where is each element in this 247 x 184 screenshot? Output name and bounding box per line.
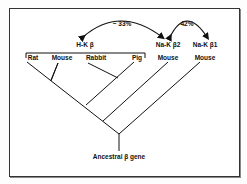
leaf-pig: Pig [132, 54, 142, 61]
group-nak-beta1: Na-K β1 [193, 41, 218, 48]
similarity-nak2-nak1: 42% [180, 20, 193, 27]
root-label: Ancestral β gene [93, 153, 145, 160]
group-hk-beta: H-K β [76, 41, 93, 48]
leaf-rat: Rat [28, 54, 38, 61]
leaf-nak1-mouse: Mouse [195, 54, 216, 61]
similarity-hk-nak2: ~ 33% [113, 20, 132, 27]
leaf-hk-mouse: Mouse [52, 54, 73, 61]
leaf-rabbit: Rabbit [86, 54, 106, 61]
group-nak-beta2: Na-K β2 [156, 41, 181, 48]
leaf-nak2-mouse: Mouse [158, 54, 179, 61]
